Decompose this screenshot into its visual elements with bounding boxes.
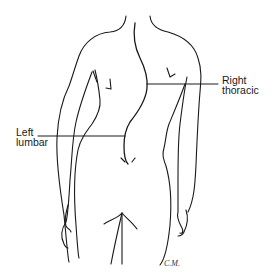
right-thoracic-label: Right thoracic — [222, 75, 259, 95]
left-waist-line — [75, 70, 100, 258]
artist-signature: C.M. — [164, 259, 180, 268]
left-neck-shoulder-line — [57, 16, 126, 262]
right-neck-shoulder-line — [150, 16, 201, 212]
left-lumbar-label-line2: lumbar — [16, 137, 48, 147]
left-lumbar-label: Left lumbar — [16, 127, 48, 147]
sacral-dimple-right — [132, 158, 135, 162]
leg-line-left — [111, 213, 122, 264]
spine-curve — [124, 23, 147, 164]
scoliosis-illustration: Right thoracic Left lumbar C.M. — [0, 0, 273, 279]
right-thoracic-label-line2: thoracic — [222, 85, 259, 95]
right-scapula-mark — [167, 68, 175, 77]
sacral-dimple-left — [121, 158, 125, 162]
left-scapula-mark — [106, 79, 111, 89]
